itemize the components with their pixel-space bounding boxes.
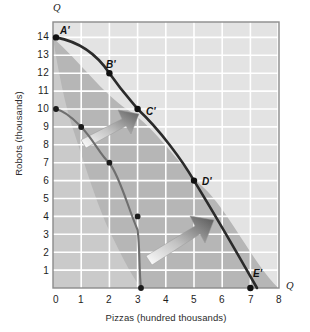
- y-tick-11: 11: [27, 85, 49, 96]
- x-tick-1: 1: [73, 294, 89, 305]
- y-tick-9: 9: [27, 121, 49, 132]
- data-point-original-4: [138, 285, 144, 291]
- y-tick-3: 3: [27, 229, 49, 240]
- data-point-C: [134, 106, 140, 112]
- data-point-A: [53, 34, 59, 40]
- data-point-D: [191, 177, 197, 183]
- data-point-original-2: [107, 160, 113, 166]
- x-tick-0: 0: [48, 294, 64, 305]
- x-tick-2: 2: [101, 294, 117, 305]
- y-tick-2: 2: [27, 247, 49, 258]
- y-axis-q-label: Q: [53, 2, 61, 13]
- y-axis-title: Robots (thousands): [13, 64, 24, 204]
- x-tick-5: 5: [186, 294, 202, 305]
- data-point-E: [247, 285, 253, 291]
- x-tick-8: 8: [271, 294, 287, 305]
- y-tick-12: 12: [27, 67, 49, 78]
- x-axis-q-label: Q: [286, 280, 294, 291]
- point-label-A: A': [60, 25, 70, 36]
- x-tick-7: 7: [243, 294, 259, 305]
- x-tick-4: 4: [158, 294, 174, 305]
- y-tick-13: 13: [27, 49, 49, 60]
- y-tick-7: 7: [27, 157, 49, 168]
- x-tick-6: 6: [214, 294, 230, 305]
- data-point-original-3: [135, 214, 141, 220]
- y-tick-8: 8: [27, 139, 49, 150]
- y-tick-1: 1: [27, 265, 49, 276]
- data-point-original-1: [78, 124, 84, 130]
- point-label-B: B': [106, 59, 116, 70]
- data-point-original-0: [53, 106, 59, 112]
- y-tick-4: 4: [27, 211, 49, 222]
- x-axis-title: Pizzas (hundred thousands): [53, 312, 279, 323]
- point-label-C: C': [146, 106, 156, 117]
- y-tick-5: 5: [27, 193, 49, 204]
- x-tick-3: 3: [130, 294, 146, 305]
- y-tick-14: 14: [27, 31, 49, 42]
- y-tick-6: 6: [27, 175, 49, 186]
- chart-figure: Q Q A' B' C' D' E' 14 13 12 11 10 9 8 7 …: [0, 0, 310, 332]
- point-label-E: E': [253, 268, 262, 279]
- y-tick-10: 10: [27, 103, 49, 114]
- point-label-D: D': [202, 176, 212, 187]
- data-point-B: [106, 70, 112, 76]
